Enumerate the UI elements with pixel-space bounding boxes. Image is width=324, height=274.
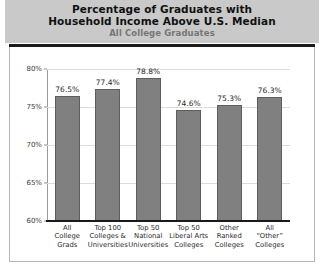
x-axis-category-label: All“Other”Colleges (250, 224, 291, 249)
chart-title: Percentage of Graduates with Household I… (5, 0, 319, 27)
bar[interactable] (176, 110, 201, 221)
x-axis-category-label: Top 50NationalUniversities (128, 224, 169, 249)
y-axis-tick-label: 75% (26, 104, 42, 111)
bar[interactable] (136, 78, 161, 221)
bar-slot[interactable]: 78.8% (128, 69, 169, 221)
bar-value-label: 76.5% (55, 86, 79, 94)
chart-title-line-1: Percentage of Graduates with (72, 3, 252, 15)
bar-value-label: 78.8% (136, 68, 160, 76)
x-axis-category-label: Top 50Liberal ArtsColleges (169, 224, 210, 249)
x-axis-category-label: Top 100Colleges &Universities (88, 224, 129, 249)
x-axis-label-line: “Other” (250, 232, 291, 240)
bar-value-label: 75.3% (217, 95, 241, 103)
x-axis-label-line: Colleges (209, 241, 250, 249)
bar[interactable] (55, 96, 80, 221)
chart-subtitle: All College Graduates (5, 27, 319, 38)
bar-slot[interactable]: 75.3% (209, 69, 250, 221)
x-axis-label-line: National (128, 232, 169, 240)
bar-slot[interactable]: 77.4% (88, 69, 129, 221)
x-axis-label-line: Top 100 (88, 224, 129, 232)
x-axis-label-line: Other (209, 224, 250, 232)
x-axis-category-label: OtherRankedColleges (209, 224, 250, 249)
plot-area: 80%75%70%65%60% 76.5%77.4%78.8%74.6%75.3… (47, 69, 290, 221)
bar-value-label: 77.4% (96, 79, 120, 87)
bar[interactable] (257, 97, 282, 221)
x-axis-label-line: Top 50 (128, 224, 169, 232)
x-axis-labels: AllCollegeGradsTop 100Colleges &Universi… (47, 224, 290, 249)
x-axis-category-label: AllCollegeGrads (47, 224, 88, 249)
y-axis-tick-label: 60% (26, 218, 42, 225)
x-axis-label-line: Colleges & (88, 232, 129, 240)
x-axis-label-line: Top 50 (169, 224, 210, 232)
x-axis-baseline (46, 220, 290, 222)
x-axis-label-line: Colleges (169, 241, 210, 249)
x-axis-label-line: College (47, 232, 88, 240)
y-axis-tick-label: 70% (26, 142, 42, 149)
bar[interactable] (95, 89, 120, 221)
x-axis-label-line: Colleges (250, 241, 291, 249)
bars-layer: 76.5%77.4%78.8%74.6%75.3%76.3% (47, 69, 290, 221)
bar-value-label: 74.6% (177, 100, 201, 108)
bar-slot[interactable]: 76.5% (47, 69, 88, 221)
x-axis-label-line: Liberal Arts (169, 232, 210, 240)
bar-value-label: 76.3% (258, 87, 282, 95)
x-axis-label-line: Universities (88, 241, 129, 249)
x-axis-label-line: Ranked (209, 232, 250, 240)
bar[interactable] (217, 105, 242, 221)
chart-figure: Percentage of Graduates with Household I… (0, 0, 324, 274)
x-axis-label-line: All (250, 224, 291, 232)
chart-title-line-2: Household Income Above U.S. Median (11, 16, 313, 28)
y-axis-tick-label: 65% (26, 180, 42, 187)
bar-slot[interactable]: 74.6% (169, 69, 210, 221)
y-axis-tick-label: 80% (26, 66, 42, 73)
x-axis-label-line: Grads (47, 241, 88, 249)
chart-header-band: Percentage of Graduates with Household I… (5, 0, 319, 43)
x-axis-label-line: All (47, 224, 88, 232)
bar-slot[interactable]: 76.3% (250, 69, 291, 221)
x-axis-label-line: Universities (128, 241, 169, 249)
